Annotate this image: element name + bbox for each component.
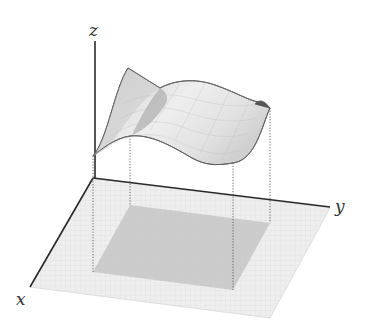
surface-diagram: z y x [0, 0, 369, 331]
z-axis-label: z [88, 20, 99, 40]
y-axis-label: y [334, 196, 345, 216]
x-axis-label: x [16, 289, 26, 309]
